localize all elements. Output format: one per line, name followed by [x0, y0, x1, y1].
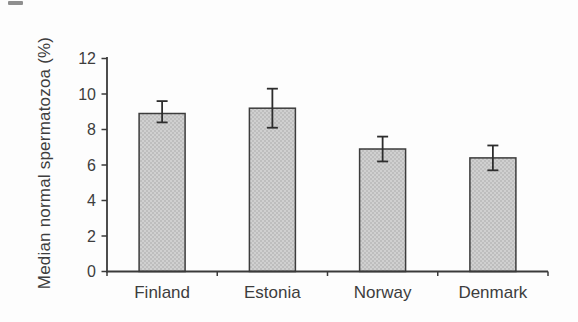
bar-chart: 024681012FinlandEstoniaNorwayDenmark	[0, 0, 578, 322]
y-tick-label: 10	[78, 86, 96, 103]
y-tick-label: 2	[87, 228, 96, 245]
y-tick-label: 12	[78, 50, 96, 67]
y-tick-label: 0	[87, 263, 96, 280]
x-category-label-denmark: Denmark	[458, 283, 527, 302]
y-ticks-group: 024681012	[78, 50, 107, 280]
y-tick-label: 8	[87, 121, 96, 138]
x-category-label-finland: Finland	[134, 283, 190, 302]
bars-group	[139, 108, 516, 271]
figure-canvas: Median normal spermatozoa (%) 024681012F…	[0, 0, 578, 322]
y-tick-label: 6	[87, 157, 96, 174]
error-bars-group	[157, 89, 499, 171]
bar-finland	[139, 114, 185, 272]
x-category-label-estonia: Estonia	[244, 283, 301, 302]
y-tick-label: 4	[87, 192, 96, 209]
bar-estonia	[249, 108, 295, 271]
bar-norway	[360, 149, 406, 272]
bar-denmark	[470, 158, 516, 272]
category-labels-group: FinlandEstoniaNorwayDenmark	[134, 283, 528, 302]
x-category-label-norway: Norway	[354, 283, 412, 302]
